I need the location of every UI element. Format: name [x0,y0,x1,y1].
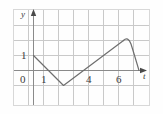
y-tick-label-1: 1 [21,50,27,61]
x-tick-label-6: 6 [116,74,122,85]
x-tick-label-1: 1 [41,74,47,85]
x-axis-label: t [143,72,146,81]
x-tick-label-4: 4 [86,74,92,85]
graph-figure: y t 1 0 1 4 6 [0,0,163,114]
y-axis-label: y [21,10,25,19]
x-tick-label-0: 0 [20,74,26,85]
